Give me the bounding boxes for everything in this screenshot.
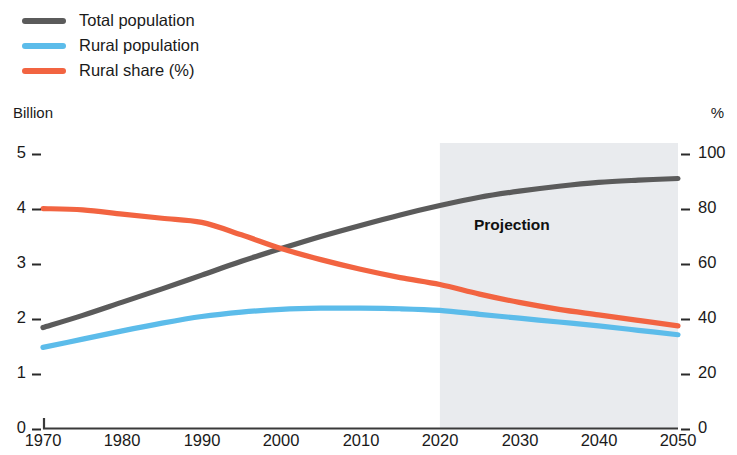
x-tick: 1980 bbox=[104, 431, 141, 450]
legend-item-rural-share: Rural share (%) bbox=[22, 58, 199, 83]
y-tick-right: 100 bbox=[681, 143, 726, 162]
y-tick-left: 5 bbox=[17, 143, 41, 162]
projection-annotation-label: Projection bbox=[474, 216, 550, 234]
x-tick: 2050 bbox=[660, 431, 697, 450]
x-tick: 2030 bbox=[502, 431, 539, 450]
tick-mark-icon bbox=[681, 373, 690, 375]
legend-label: Rural population bbox=[79, 37, 199, 54]
y-tick-right: 20 bbox=[681, 363, 716, 382]
legend-label: Rural share (%) bbox=[79, 62, 195, 79]
tick-mark-icon bbox=[681, 318, 690, 320]
y-tick-right: 40 bbox=[681, 308, 716, 327]
x-tick: 1990 bbox=[184, 431, 221, 450]
x-tick: 2010 bbox=[343, 431, 380, 450]
legend-item-total-population: Total population bbox=[22, 8, 199, 33]
x-tick: 1970 bbox=[25, 431, 62, 450]
chart-legend: Total population Rural population Rural … bbox=[22, 8, 199, 83]
tick-mark-icon bbox=[681, 153, 690, 155]
right-axis-ticks: 100 80 60 40 20 0 bbox=[681, 0, 737, 455]
tick-mark-icon bbox=[681, 263, 690, 265]
legend-item-rural-population: Rural population bbox=[22, 33, 199, 58]
y-tick-left: 3 bbox=[17, 253, 41, 272]
tick-mark-icon bbox=[32, 153, 41, 155]
tick-mark-icon bbox=[32, 208, 41, 210]
population-rural-share-chart: Total population Rural population Rural … bbox=[0, 0, 737, 455]
tick-mark-icon bbox=[681, 208, 690, 210]
legend-label: Total population bbox=[79, 12, 195, 29]
y-tick-left: 4 bbox=[17, 198, 41, 217]
x-tick: 2020 bbox=[422, 431, 459, 450]
x-tick: 2000 bbox=[263, 431, 300, 450]
x-tick: 2040 bbox=[581, 431, 618, 450]
y-tick-left: 1 bbox=[17, 363, 41, 382]
y-tick-right: 60 bbox=[681, 253, 716, 272]
tick-mark-icon bbox=[32, 263, 41, 265]
y-tick-right: 80 bbox=[681, 198, 716, 217]
y-tick-left: 2 bbox=[17, 308, 41, 327]
tick-mark-icon bbox=[32, 428, 41, 430]
left-axis-ticks: 5 4 3 2 1 0 bbox=[0, 0, 41, 455]
tick-mark-icon bbox=[32, 373, 41, 375]
tick-mark-icon bbox=[32, 318, 41, 320]
tick-mark-icon bbox=[681, 428, 690, 430]
